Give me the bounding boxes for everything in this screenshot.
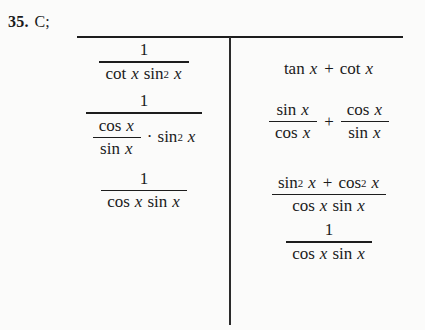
- right-derivation-column: tan x + cot x sin x cos x: [238, 40, 420, 265]
- variable-x: x: [365, 60, 375, 78]
- fraction-numerator: 1: [134, 91, 155, 111]
- fraction: 1 cos x sin x: [86, 91, 203, 160]
- numerator-value: 1: [140, 170, 149, 188]
- numerator-value: 1: [140, 41, 149, 59]
- right-step-2: sin x cos x + cos x: [268, 100, 390, 143]
- variable-x: x: [319, 245, 329, 263]
- fraction-bar: [269, 121, 317, 123]
- fraction-denominator: cos x sin x: [101, 192, 187, 212]
- top-horizontal-rule: [77, 36, 403, 38]
- variable-x: x: [187, 128, 197, 146]
- cot-function: cot: [105, 65, 126, 83]
- variable-x: x: [319, 197, 329, 215]
- answer-key-page: 35. C; 1 cot x sin2 x: [0, 0, 425, 330]
- variable-x: x: [173, 65, 183, 83]
- fraction-numerator: 1: [319, 220, 340, 240]
- fraction-numerator: 1: [134, 40, 155, 60]
- variable-x: x: [171, 193, 181, 211]
- problem-label: 35. C;: [8, 13, 50, 31]
- fraction-bar: [99, 61, 188, 63]
- variable-x: x: [356, 197, 366, 215]
- column-divider: [229, 37, 231, 325]
- fraction-numerator: sin2 x + cos2 x: [272, 173, 386, 193]
- fraction-denominator: sin x: [342, 123, 387, 143]
- sin-function: sin: [332, 245, 352, 263]
- variable-x: x: [124, 140, 134, 158]
- fraction-bar: [86, 112, 203, 114]
- variable-x: x: [125, 117, 135, 135]
- variable-x: x: [309, 60, 319, 78]
- plus-operator: +: [317, 174, 339, 192]
- fraction-bar: [101, 190, 187, 192]
- nested-fraction: cos x sin x: [93, 116, 141, 159]
- cos-function: cos: [338, 174, 361, 192]
- fraction-denominator: cos x sin x: [286, 196, 372, 216]
- variable-x: x: [370, 174, 380, 192]
- sin-function: sin: [158, 128, 178, 146]
- cos-function: cos: [275, 124, 298, 142]
- fraction-numerator: 1: [134, 169, 155, 189]
- fraction-denominator: cot x sin2 x: [99, 64, 188, 84]
- plus-operator: +: [318, 113, 340, 131]
- numerator-value: 1: [140, 92, 149, 110]
- fraction-cos-over-sin: cos x sin x: [341, 100, 389, 143]
- sin-function: sin: [276, 101, 296, 119]
- left-step-1: 1 cot x sin2 x: [98, 40, 189, 84]
- sin-function: sin: [147, 193, 167, 211]
- cos-function: cos: [292, 197, 315, 215]
- multiplication-operator: ·: [142, 128, 158, 146]
- sin-function: sin: [144, 65, 164, 83]
- fraction: sin2 x + cos2 x cos x sin x: [272, 173, 386, 216]
- variable-x: x: [134, 193, 144, 211]
- right-step-1: tan x + cot x: [284, 60, 374, 78]
- cos-function: cos: [107, 193, 130, 211]
- variable-x: x: [130, 65, 140, 83]
- variable-x: x: [307, 174, 317, 192]
- right-step-4: 1 cos x sin x: [285, 220, 373, 263]
- right-step-3: sin2 x + cos2 x cos x sin x: [271, 173, 387, 216]
- fraction-denominator: cos x sin x: [286, 244, 372, 264]
- sin-function: sin: [348, 124, 368, 142]
- sin-function: sin: [332, 197, 352, 215]
- left-step-2: 1 cos x sin x: [85, 91, 204, 160]
- problem-number: 35.: [8, 13, 29, 31]
- fraction-sin-over-cos: sin x cos x: [269, 100, 317, 143]
- fraction-bar: [341, 121, 389, 123]
- plus-operator: +: [318, 60, 340, 78]
- variable-x: x: [302, 124, 312, 142]
- nested-numerator: cos x: [93, 116, 141, 136]
- fraction-denominator: cos x sin x · sin2 x: [86, 115, 203, 160]
- tan-function: tan: [284, 60, 305, 78]
- fraction: 1 cos x sin x: [101, 169, 187, 212]
- sin-function: sin: [278, 174, 298, 192]
- fraction-denominator: cos x: [269, 123, 317, 143]
- variable-x: x: [372, 124, 382, 142]
- cos-function: cos: [347, 101, 370, 119]
- fraction-bar: [272, 194, 386, 196]
- fraction-bar: [286, 241, 372, 243]
- sin-function: sin: [100, 140, 120, 158]
- fraction: 1 cot x sin2 x: [99, 40, 188, 84]
- cos-function: cos: [99, 117, 122, 135]
- nested-denominator: sin x: [94, 139, 139, 159]
- left-derivation-column: 1 cot x sin2 x 1: [62, 40, 226, 214]
- cot-function: cot: [340, 60, 361, 78]
- cos-function: cos: [292, 245, 315, 263]
- fraction-numerator: cos x: [341, 100, 389, 120]
- fraction: 1 cos x sin x: [286, 220, 372, 263]
- nested-fraction-bar: [93, 137, 141, 139]
- variable-x: x: [300, 101, 310, 119]
- fraction-numerator: sin x: [270, 100, 315, 120]
- answer-choice: C;: [35, 13, 50, 31]
- variable-x: x: [373, 101, 383, 119]
- left-step-3: 1 cos x sin x: [100, 169, 188, 212]
- variable-x: x: [356, 245, 366, 263]
- numerator-value: 1: [325, 221, 334, 239]
